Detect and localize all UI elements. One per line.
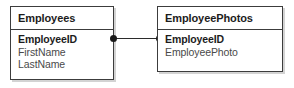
field-employeephotos-employeephoto[interactable]: EmployeePhoto (165, 46, 282, 59)
entity-employeephotos-fields: EmployeeID EmployeePhoto (158, 30, 282, 62)
entity-employeephotos-title: EmployeePhotos (165, 13, 253, 24)
field-employees-firstname[interactable]: FirstName (18, 46, 113, 59)
relationship-line (113, 38, 159, 39)
entity-employees-title: Employees (18, 13, 75, 24)
entity-employeephotos-header: EmployeePhotos (158, 7, 282, 30)
relationship-connector[interactable] (108, 33, 164, 45)
field-employees-employeeid[interactable]: EmployeeID (18, 33, 113, 46)
entity-employees[interactable]: Employees EmployeeID FirstName LastName (10, 6, 114, 80)
relationship-left-filled-circle-icon (110, 35, 117, 42)
entity-employees-header: Employees (11, 7, 113, 30)
entity-employees-fields: EmployeeID FirstName LastName (11, 30, 113, 75)
erd-canvas: Employees EmployeeID FirstName LastName … (0, 0, 294, 88)
field-employees-lastname[interactable]: LastName (18, 58, 113, 71)
entity-employeephotos[interactable]: EmployeePhotos EmployeeID EmployeePhoto (157, 6, 283, 72)
field-employeephotos-employeeid[interactable]: EmployeeID (165, 33, 282, 46)
